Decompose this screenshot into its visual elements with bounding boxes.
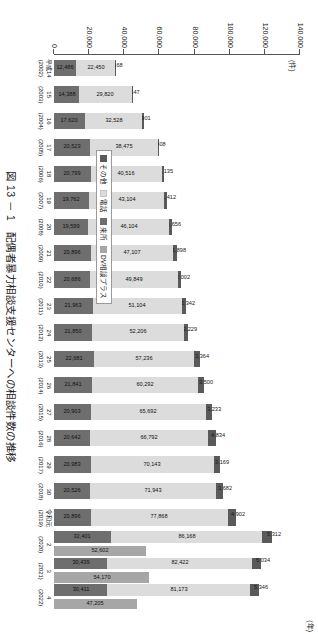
bar-segment-other: 901 <box>142 113 144 129</box>
bar-value-label: 54,170 <box>93 575 110 581</box>
legend: その他 電話 来所 DV相談プラス <box>96 150 112 304</box>
bar-segment-other: 3,500 <box>198 377 204 393</box>
bar-column[interactable]: 2,34251,10421,963 <box>54 293 300 319</box>
bar-segment-other: 1,412 <box>164 192 166 208</box>
stacked-bar[interactable]: 1,65646,10419,599 <box>54 219 300 235</box>
bar-value-label: 3,169 <box>215 459 229 465</box>
bar-column[interactable]: 3,23365,69220,903 <box>54 398 300 424</box>
bar-value-label: 3,682 <box>218 485 232 491</box>
stacked-bar[interactable]: 3,23365,69220,903 <box>54 404 300 420</box>
bar-column[interactable]: 3,68271,94320,526 <box>54 478 300 504</box>
bar-segment-phone: 52,206 <box>92 324 184 340</box>
bar-segment-visit: 20,896 <box>54 509 91 525</box>
bar-column[interactable]: 16822,45012,486 <box>54 55 300 81</box>
bar-value-label: 22,681 <box>65 356 82 362</box>
bar-value-label: 49,849 <box>126 277 143 283</box>
y-tick-label: 40,000 <box>121 27 128 54</box>
bar-segment-visit: 22,681 <box>54 351 94 367</box>
y-tick-label: 100,000 <box>226 23 233 54</box>
legend-label-dvplus: DV相談プラス <box>99 255 109 299</box>
stacked-bar[interactable]: 4,83466,79220,642 <box>54 430 300 446</box>
legend-item-phone: 電話 <box>99 190 109 213</box>
stacked-bar[interactable]: 2,22952,20621,850 <box>54 324 300 340</box>
bar-segment-phone: 32,528 <box>85 113 142 129</box>
stacked-bar[interactable]: 90132,52817,620 <box>54 113 300 129</box>
stacked-bar[interactable]: 3,68271,94320,526 <box>54 483 300 499</box>
bar-value-label: 19,599 <box>63 224 80 230</box>
bar-value-label: 21,850 <box>65 330 82 336</box>
stacked-bar[interactable]: 5,03482,42230,439 <box>54 558 300 570</box>
bar-column[interactable]: 64729,82014,388 <box>54 81 300 107</box>
bar-value-label: 5,034 <box>256 557 270 563</box>
stacked-bar[interactable]: 1,41243,10419,762 <box>54 192 300 208</box>
bar-value-label: 60,292 <box>137 382 154 388</box>
stacked-bar[interactable]: 2,34251,10421,963 <box>54 298 300 314</box>
stacked-bar[interactable]: 5,34681,17330,411 <box>54 584 300 596</box>
bar-value-label: 21,841 <box>65 382 82 388</box>
bar-value-label: 52,206 <box>130 330 147 336</box>
bar-segment-other: 5,312 <box>262 531 271 543</box>
stacked-bar[interactable]: 3,50060,29221,841 <box>54 377 300 393</box>
bar-column[interactable]: 3,16970,14320,983 <box>54 451 300 477</box>
bar-value-label: 901 <box>141 115 150 121</box>
bar-column[interactable]: 3,36457,23622,681 <box>54 346 300 372</box>
bar-column[interactable]: 80838,47520,523 <box>54 134 300 160</box>
bar-segment-other: 5,346 <box>250 584 259 596</box>
bar-segment-visit: 20,686 <box>54 271 90 287</box>
bar-segment-other: 3,169 <box>214 456 220 472</box>
bar-value-label: 51,104 <box>129 303 146 309</box>
stacked-bar[interactable]: 1,13540,51620,799 <box>54 166 300 182</box>
bar-column[interactable]: 90132,52817,620 <box>54 108 300 134</box>
bar-segment-phone: 70,143 <box>91 456 214 472</box>
bar-segment-visit: 32,401 <box>54 531 111 543</box>
bar-segment-dvplus: 47,205 <box>54 599 137 610</box>
bar-column[interactable]: 5,34681,17330,41147,205 <box>54 583 300 609</box>
legend-swatch-visit-icon <box>101 218 108 225</box>
bar-segment-other: 5,034 <box>252 558 261 570</box>
bar-value-label: 47,107 <box>124 250 141 256</box>
bar-segment-dvplus: 54,170 <box>54 572 149 583</box>
bar-value-label: 52,602 <box>92 548 109 554</box>
bar-value-label: 2,002 <box>176 274 190 280</box>
bar-segment-phone: 81,173 <box>107 584 250 596</box>
bar-column[interactable]: 4,90277,86820,896 <box>54 504 300 530</box>
bar-segment-other: 647 <box>132 86 133 102</box>
dvplus-bar[interactable]: 52,602 <box>54 546 300 557</box>
bar-segment-visit: 21,841 <box>54 377 92 393</box>
bar-value-label: 40,516 <box>118 171 135 177</box>
legend-label-visit: 来所 <box>99 227 109 241</box>
bar-column[interactable]: 5,03482,42230,43954,170 <box>54 557 300 583</box>
bar-segment-phone: 60,292 <box>92 377 198 393</box>
stacked-bar[interactable]: 5,31286,16832,401 <box>54 531 300 543</box>
bar-column[interactable]: 5,31286,16832,40152,602 <box>54 531 300 557</box>
bar-value-label: 20,799 <box>64 171 81 177</box>
plot-area: (件) 020,00040,00060,00080,000100,000120,… <box>54 54 300 610</box>
stacked-bar[interactable]: 3,16970,14320,983 <box>54 456 300 472</box>
bar-column[interactable]: 4,83466,79220,642 <box>54 425 300 451</box>
stacked-bar[interactable]: 16822,45012,486 <box>54 60 300 76</box>
bar-column[interactable]: 3,50060,29221,841 <box>54 372 300 398</box>
stacked-bar[interactable]: 3,36457,23622,681 <box>54 351 300 367</box>
bar-segment-phone: 22,450 <box>76 60 115 76</box>
dvplus-bar[interactable]: 47,205 <box>54 599 300 610</box>
bar-column[interactable]: 2,22952,20621,850 <box>54 319 300 345</box>
stacked-bar[interactable]: 80838,47520,523 <box>54 139 300 155</box>
bar-column[interactable]: 1,13540,51620,799 <box>54 161 300 187</box>
bar-segment-dvplus: 52,602 <box>54 546 146 557</box>
bar-segment-other: 1,898 <box>173 245 176 261</box>
bar-column[interactable]: 1,41243,10419,762 <box>54 187 300 213</box>
bar-value-label: 46,104 <box>120 224 137 230</box>
stacked-bar[interactable]: 4,90277,86820,896 <box>54 509 300 525</box>
y-tick-label: 120,000 <box>261 23 268 54</box>
bar-value-label: 43,104 <box>118 198 135 204</box>
stacked-bar[interactable]: 1,89847,10720,896 <box>54 245 300 261</box>
bar-column[interactable]: 1,65646,10419,599 <box>54 214 300 240</box>
dvplus-bar[interactable]: 54,170 <box>54 572 300 583</box>
bar-column[interactable]: 2,00249,84920,686 <box>54 266 300 292</box>
bar-value-label: 1,898 <box>172 247 186 253</box>
stacked-bar[interactable]: 64729,82014,388 <box>54 86 300 102</box>
stacked-bar[interactable]: 2,00249,84920,686 <box>54 271 300 287</box>
legend-swatch-other-icon <box>101 155 108 162</box>
bar-value-label: 38,475 <box>115 145 132 151</box>
bar-column[interactable]: 1,89847,10720,896 <box>54 240 300 266</box>
